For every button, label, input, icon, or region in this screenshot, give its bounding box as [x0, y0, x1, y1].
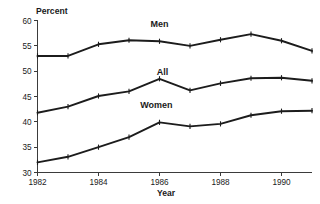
y-tick-label: 30: [22, 169, 32, 178]
x-tick-label: 1982: [28, 178, 47, 187]
y-axis: 30354045505560: [22, 17, 37, 178]
y-tick-label: 40: [22, 118, 32, 127]
series-line-all: [38, 78, 313, 113]
x-tick-label: 1990: [272, 178, 291, 187]
series-label-all: All: [157, 67, 169, 77]
series-labels: MenAllWomen: [140, 19, 172, 110]
y-tick-label: 55: [22, 42, 32, 51]
x-tick-label: 1988: [211, 178, 230, 187]
y-tick-label: 35: [22, 143, 32, 152]
series-lines: [38, 32, 313, 165]
x-tick-label: 1984: [89, 178, 108, 187]
x-axis: 19821984198619881990: [28, 173, 312, 187]
series-line-women: [38, 111, 313, 163]
x-axis-title: Year: [157, 188, 176, 198]
line-chart: 30354045505560 19821984198619881990 MenA…: [0, 0, 320, 204]
series-label-men: Men: [151, 19, 169, 29]
series-label-women: Women: [140, 100, 172, 110]
y-tick-label: 45: [22, 93, 32, 102]
series-line-men: [38, 34, 313, 56]
y-axis-title: Percent: [36, 6, 68, 16]
chart-container: 30354045505560 19821984198619881990 MenA…: [0, 0, 320, 204]
x-tick-label: 1986: [150, 178, 169, 187]
y-tick-label: 50: [22, 67, 32, 76]
y-tick-label: 60: [22, 17, 32, 26]
